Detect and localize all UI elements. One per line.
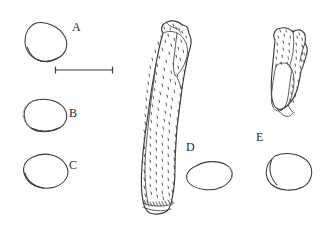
- specimen-e-outline: [266, 154, 311, 191]
- scale-bar: [55, 67, 113, 74]
- specimen-b-outline: [23, 99, 67, 132]
- plate-drawing: [0, 0, 324, 227]
- specimen-c-outline: [24, 154, 68, 188]
- specimen-d-artifact: [141, 21, 191, 214]
- specimen-a-outline: [25, 23, 67, 62]
- specimen-label-a: A: [72, 21, 81, 33]
- specimen-label-d: D: [186, 141, 195, 153]
- specimen-label-b: B: [69, 107, 77, 119]
- specimen-label-e: E: [256, 131, 264, 143]
- specimen-e-artifact: [271, 28, 307, 117]
- specimen-label-c: C: [69, 159, 77, 171]
- figure-plate: A B C D E: [0, 0, 324, 227]
- specimen-d-outline: [187, 162, 233, 190]
